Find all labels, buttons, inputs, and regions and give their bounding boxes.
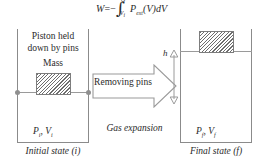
vessel-right-wall [251,29,252,143]
vessel-floor [180,142,252,143]
initial-state-values: Pi, Vi [33,126,53,138]
process-caption: Gas expansion [92,123,177,133]
integral-lower-limit: Vi [120,11,125,19]
height-label: h [163,48,168,58]
mass-block [36,73,71,95]
work-integral-equation: W=−∫VfViPext(V)dV [96,2,167,17]
piston-note-line2: down by pins [27,43,78,53]
vessel-floor [17,142,89,143]
integrand-differential: (V)dV [143,3,167,14]
integral-limits: VfVi [120,2,125,17]
mass-block [199,31,234,53]
pin-right-icon [86,90,91,95]
pin-left-icon [15,90,20,95]
piston-note: Piston held down by pins [17,31,89,54]
final-state-vessel [180,29,252,143]
arrow-label: Removing pins [92,77,154,87]
diagram-canvas: W=−∫VfViPext(V)dV Piston held down by pi… [0,0,259,168]
integral-upper-limit: Vf [120,0,125,4]
integrand-pressure-subscript: ext [136,10,143,16]
final-state-values: Pf, Vf [196,126,216,138]
piston-note-line1: Piston held [32,31,75,41]
mass-label: Mass [17,58,89,68]
initial-state-caption: Initial state (i) [11,146,95,156]
final-state-caption: Final state (f) [174,146,258,156]
vessel-left-wall [180,29,181,143]
